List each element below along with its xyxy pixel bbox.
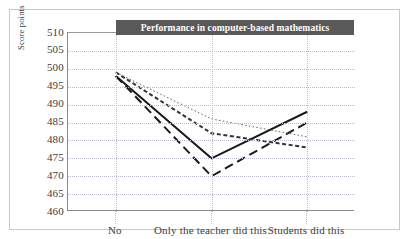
y-axis-tick-labels: 510505500495490485480475470465460 [18,32,64,211]
plot-area [67,32,354,211]
x-axis-tick-label: No [108,224,122,237]
y-axis-tick-label: 465 [20,188,64,199]
gridline-vertical [116,33,117,212]
x-axis-tick-label: Students did this [268,224,345,237]
figure-frame: Score points 510505500495490485480475470… [9,9,400,230]
chart-title-banner: Performance in computer-based mathematic… [116,20,354,35]
y-axis-tick-label: 495 [20,80,64,91]
line-chart: Score points 510505500495490485480475470… [0,0,410,239]
x-axis-tick-mark [211,211,212,224]
y-axis-tick-label: 500 [20,62,64,73]
x-axis-tick-labels: NoOnly the teacher did thisStudents did … [67,224,354,239]
x-axis-tick-mark [115,211,116,224]
y-axis-tick-label: 485 [20,116,64,127]
x-axis-tick-label: Only the teacher did this [154,224,267,237]
y-axis-tick-label: 490 [20,98,64,109]
gridline-vertical [212,33,213,212]
y-axis-tick-label: 505 [20,44,64,55]
x-axis-tick-mark [306,211,307,224]
chart-title: Performance in computer-based mathematic… [141,23,330,33]
y-axis-tick-label: 480 [20,134,64,145]
y-axis-tick-label: 470 [20,170,64,181]
gridline-vertical [307,33,308,212]
y-axis-tick-label: 510 [20,27,64,38]
y-axis-tick-label: 460 [20,206,64,217]
y-axis-tick-label: 475 [20,152,64,163]
